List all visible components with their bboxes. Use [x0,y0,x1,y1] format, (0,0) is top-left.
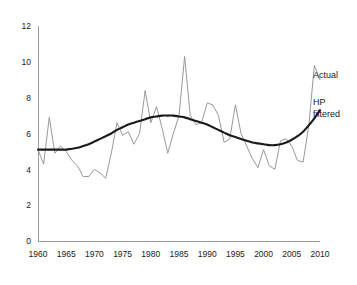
x-tick-label: 1965 [57,249,76,259]
y-tick-label: 10 [22,57,32,67]
legend-label-actual: Actual [313,70,338,80]
x-axis-tick-labels: 1960196519701975198019851990199520002005… [29,249,330,259]
y-tick-label: 2 [26,200,31,210]
series-line-hp-filtered [38,110,320,149]
y-axis-tick-labels: 024681012 [22,21,32,246]
y-tick-label: 12 [22,21,32,31]
x-tick-label: 2000 [254,249,273,259]
y-tick-label: 8 [26,93,31,103]
x-tick-label: 1990 [198,249,217,259]
x-tick-label: 1960 [29,249,48,259]
x-tick-label: 2005 [282,249,301,259]
chart-container: 024681012 196019651970197519801985199019… [0,0,357,285]
x-tick-label: 1985 [170,249,189,259]
x-tick-label: 1970 [85,249,104,259]
y-tick-label: 0 [26,236,31,246]
legend-label-hp-filtered-line1: HP [313,97,326,107]
x-tick-label: 2010 [311,249,330,259]
x-tick-label: 1995 [226,249,245,259]
x-tick-label: 1975 [113,249,132,259]
y-tick-label: 4 [26,165,31,175]
legend-label-hp-filtered-line2: filtered [313,109,340,119]
x-tick-label: 1980 [141,249,160,259]
line-chart: 024681012 196019651970197519801985199019… [0,0,357,285]
y-tick-label: 6 [26,129,31,139]
